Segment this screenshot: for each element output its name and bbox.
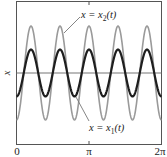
x-tick-2pi: 2π xyxy=(154,145,166,157)
x1-annotation: x = x1(t) xyxy=(88,122,125,136)
x2-leader-line xyxy=(64,17,80,33)
x-tick-0: 0 xyxy=(14,145,20,157)
chart: x = x2(t) x = x1(t) x 0 π 2π xyxy=(0,0,167,157)
y-axis-label: x xyxy=(1,70,12,76)
x2-annotation: x = x2(t) xyxy=(80,9,117,23)
x-tick-pi: π xyxy=(86,145,92,157)
